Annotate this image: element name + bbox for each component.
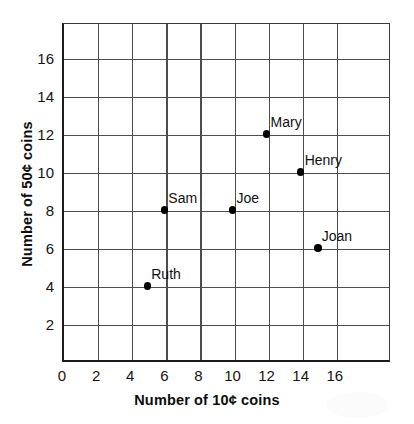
data-point-marker — [263, 130, 271, 138]
data-point-marker — [229, 206, 237, 214]
y-axis-title: Number of 50¢ coins — [19, 89, 35, 299]
x-axis-tick-label: 4 — [115, 368, 145, 383]
gridline-vertical — [337, 24, 338, 360]
data-point-marker — [144, 282, 152, 290]
data-point-label: Ruth — [151, 267, 181, 281]
gridline-horizontal — [64, 173, 389, 174]
data-point-label: Henry — [305, 153, 342, 167]
data-point-label: Mary — [271, 115, 302, 129]
data-point-marker — [314, 244, 322, 252]
gridline-vertical — [269, 24, 270, 360]
gridline-vertical — [132, 24, 133, 360]
x-axis-tick-label: 6 — [149, 368, 179, 383]
gridline-vertical — [98, 24, 99, 360]
gridline-horizontal — [64, 135, 389, 136]
x-axis-tick-label: 8 — [183, 368, 213, 383]
x-axis-tick-label: 2 — [81, 368, 111, 383]
gridline-horizontal — [64, 97, 389, 98]
x-axis-tick-label: 16 — [320, 368, 350, 383]
y-axis-tick-label: 2 — [28, 317, 54, 332]
gridline-horizontal — [64, 249, 389, 250]
gridline-vertical — [200, 24, 201, 360]
gridline-horizontal — [64, 211, 389, 212]
scatter-plot: 0246810121416246810121416 RuthSamJoeMary… — [0, 0, 414, 424]
gridline-vertical — [303, 24, 304, 360]
watermark — [326, 392, 388, 418]
data-point-label: Joan — [322, 229, 352, 243]
x-axis-tick-label: 12 — [252, 368, 282, 383]
data-point-label: Sam — [168, 191, 197, 205]
plot-area — [62, 23, 390, 362]
x-axis-tick-label: 14 — [286, 368, 316, 383]
x-axis-tick-label: 10 — [218, 368, 248, 383]
data-point-label: Joe — [237, 191, 260, 205]
gridline-horizontal — [64, 325, 389, 326]
y-axis-tick-label: 16 — [28, 51, 54, 66]
gridline-horizontal — [64, 287, 389, 288]
gridline-horizontal — [64, 59, 389, 60]
x-axis-tick-label: 0 — [47, 368, 77, 383]
data-point-marker — [161, 206, 169, 214]
